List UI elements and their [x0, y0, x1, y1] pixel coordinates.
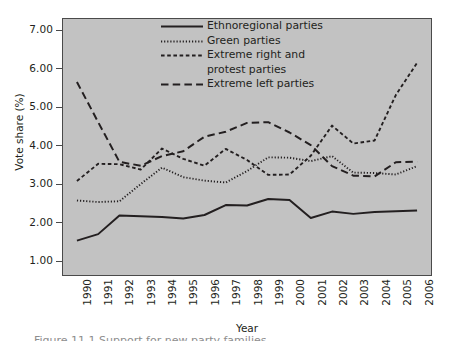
- x-tick-label: 1992: [124, 279, 135, 319]
- x-tick-label: 2003: [359, 279, 370, 319]
- legend-item: Ethnoregional parties: [160, 19, 375, 34]
- legend-line-sample: [160, 77, 204, 91]
- y-tick-label: 2.00: [29, 217, 53, 227]
- y-tick-label: 4.00: [29, 140, 53, 150]
- series-line: [77, 199, 417, 241]
- legend-line-sample: [160, 34, 204, 48]
- y-axis-title: Vote share (%): [13, 67, 25, 197]
- legend-item: Green parties: [160, 34, 375, 49]
- legend-item: Extreme right and: [160, 48, 375, 63]
- series-line: [77, 82, 417, 176]
- x-tick-label: 1995: [188, 279, 199, 319]
- x-tick-label: 1994: [167, 279, 178, 319]
- x-tick-label: 1997: [231, 279, 242, 319]
- y-tick-label: 5.00: [29, 101, 53, 111]
- legend-line-sample: [160, 19, 204, 33]
- x-tick-label: 2000: [295, 279, 306, 319]
- legend-label-line2: protest parties: [160, 63, 286, 77]
- y-tick-label: 7.00: [29, 24, 53, 34]
- legend-label: Green parties: [204, 34, 281, 48]
- y-tick-label: 3.00: [29, 178, 53, 188]
- x-tick-label: 1993: [146, 279, 157, 319]
- x-axis-title: Year: [62, 322, 432, 334]
- x-tick-label: 2002: [338, 279, 349, 319]
- x-tick-label: 2004: [381, 279, 392, 319]
- x-tick-label: 2006: [424, 279, 435, 319]
- x-tick-label: 1999: [274, 279, 285, 319]
- legend-item: Extreme left parties: [160, 77, 375, 92]
- legend-item-continuation: protest parties: [160, 63, 375, 78]
- x-tick-label: 1998: [253, 279, 264, 319]
- x-tick-label: 1996: [210, 279, 221, 319]
- figure-container: 1.002.003.004.005.006.007.00 Vote share …: [0, 0, 452, 341]
- legend-label: Ethnoregional parties: [204, 19, 323, 33]
- chart-legend: Ethnoregional partiesGreen partiesExtrem…: [160, 19, 375, 92]
- x-tick-label: 1990: [82, 279, 93, 319]
- x-tick-label: 1991: [103, 279, 114, 319]
- x-axis: 1990199119921993199419951996199719981999…: [62, 279, 432, 323]
- y-tick-label: 6.00: [29, 63, 53, 73]
- figure-caption: Figure 11.1 Support for new party famili…: [34, 334, 266, 341]
- x-tick-label: 2005: [402, 279, 413, 319]
- y-axis: 1.002.003.004.005.006.007.00: [0, 0, 62, 341]
- x-tick-label: 2001: [317, 279, 328, 319]
- legend-label: Extreme right and: [204, 48, 305, 62]
- legend-label: Extreme left parties: [204, 77, 314, 91]
- y-tick-label: 1.00: [29, 255, 53, 265]
- legend-line-sample: [160, 48, 204, 62]
